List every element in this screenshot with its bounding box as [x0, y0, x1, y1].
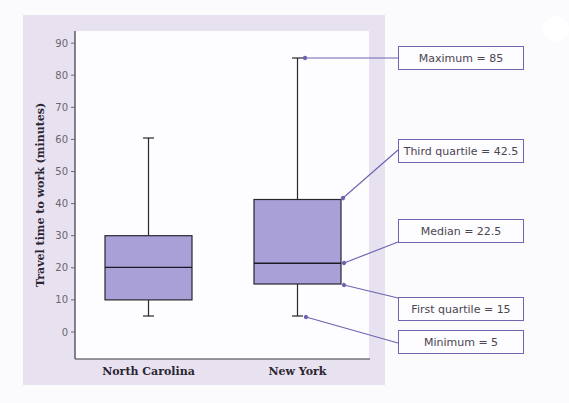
svg-text:50: 50 — [55, 166, 68, 177]
svg-text:30: 30 — [55, 230, 68, 241]
category-label-north-carolina: North Carolina — [102, 365, 195, 378]
box-north-carolina — [105, 138, 192, 316]
svg-text:70: 70 — [55, 102, 68, 113]
annotation-minimum: Minimum = 5 — [398, 330, 524, 354]
svg-text:80: 80 — [55, 70, 68, 81]
svg-text:60: 60 — [55, 134, 68, 145]
annotation-first-quartile: First quartile = 15 — [398, 297, 524, 321]
category-label-new-york: New York — [268, 365, 326, 378]
box-new-york — [254, 58, 341, 316]
annotation-maximum: Maximum = 85 — [398, 46, 524, 70]
arrow-median — [344, 242, 398, 263]
svg-text:90: 90 — [55, 38, 68, 49]
arrow-min — [306, 317, 398, 343]
annotation-third-quartile: Third quartile = 42.5 — [398, 139, 524, 163]
annotation-median: Median = 22.5 — [398, 219, 524, 243]
y-axis-label: Travel time to work (minutes) — [34, 103, 47, 287]
arrow-q1 — [344, 285, 398, 298]
svg-text:10: 10 — [55, 294, 68, 305]
y-tick-labels: 0 10 20 30 40 50 60 70 80 90 — [55, 38, 68, 338]
svg-text:0: 0 — [62, 327, 68, 338]
arrow-q3 — [343, 150, 398, 198]
svg-text:20: 20 — [55, 262, 68, 273]
corner-circle-decoration — [543, 16, 569, 42]
svg-text:40: 40 — [55, 198, 68, 209]
